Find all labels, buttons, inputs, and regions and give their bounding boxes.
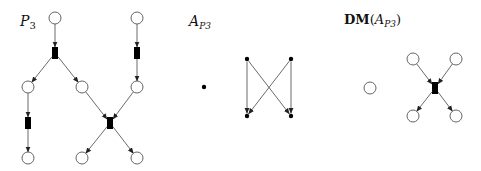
arc-u1-q4	[438, 92, 452, 111]
diagram-canvas: P3 AP3 DM(AP3)	[0, 0, 481, 171]
arc-q1-u1	[417, 64, 432, 84]
dm-net-label: DM(AP3)	[344, 12, 401, 29]
place-q4	[450, 110, 462, 122]
arc-t4-p8	[113, 127, 133, 153]
arc-p4-t4	[86, 92, 107, 119]
petri-net-label: P3	[19, 13, 36, 31]
automaton-edges	[247, 61, 291, 114]
petri-net-panel: P3	[19, 12, 143, 164]
arc-q2-u1	[438, 64, 452, 84]
arc-t4-p7	[86, 127, 107, 154]
transition-t1	[52, 47, 58, 59]
place-q3	[407, 110, 419, 122]
state-n1	[245, 57, 249, 61]
place-q1	[407, 53, 419, 65]
arc-p5-t4	[113, 92, 133, 119]
transition-t3	[25, 117, 31, 129]
place-q0	[364, 82, 376, 94]
state-n3	[245, 114, 249, 118]
place-p4	[76, 81, 88, 93]
transition-t2	[134, 47, 140, 59]
state-n4	[289, 114, 293, 118]
arc-t1-p4	[58, 57, 78, 83]
petri-net-nodes	[22, 12, 143, 164]
place-p3	[22, 81, 34, 93]
arc-t1-p3	[32, 57, 52, 83]
transition-t4	[107, 117, 113, 129]
place-p7	[76, 152, 88, 164]
state-n2	[289, 57, 293, 61]
state-n0	[202, 85, 206, 89]
automaton-label: AP3	[187, 13, 211, 31]
place-p1	[49, 12, 61, 24]
arc-u1-q3	[417, 92, 432, 111]
automaton-panel: AP3	[187, 13, 293, 118]
place-p5	[131, 81, 143, 93]
dm-net-panel: DM(AP3)	[344, 12, 462, 122]
place-p6	[22, 152, 34, 164]
dm-net-nodes	[364, 53, 462, 122]
place-q2	[450, 53, 462, 65]
place-p2	[131, 12, 143, 24]
transition-u1	[432, 82, 438, 94]
place-p8	[131, 152, 143, 164]
automaton-nodes	[202, 57, 293, 118]
